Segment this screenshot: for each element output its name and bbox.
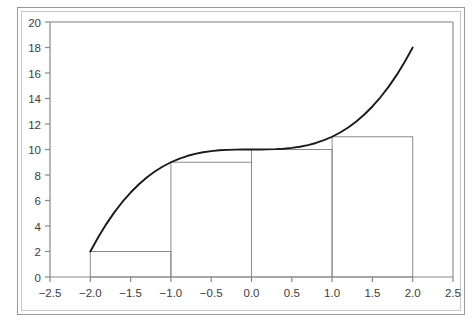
riemann-sum-chart: 02468101214161820−2.5−2.0−1.5−1.0−0.50.0… xyxy=(0,0,472,324)
riemann-rectangle xyxy=(171,162,252,277)
x-axis-tick-label: −2.5 xyxy=(39,287,62,299)
y-axis-tick-label: 16 xyxy=(28,68,41,80)
x-axis-tick-label: 0.0 xyxy=(244,287,260,299)
x-axis-tick-label: −1.0 xyxy=(160,287,183,299)
riemann-rectangle xyxy=(90,252,171,278)
y-axis-tick-label: 0 xyxy=(35,272,41,284)
outer-frame xyxy=(18,8,465,315)
y-axis-tick-label: 6 xyxy=(35,195,41,207)
x-axis-tick-label: 2.0 xyxy=(405,287,421,299)
chart-figure: 02468101214161820−2.5−2.0−1.5−1.0−0.50.0… xyxy=(0,0,472,324)
y-axis-tick-label: 12 xyxy=(28,119,41,131)
riemann-rectangle xyxy=(252,150,333,278)
riemann-rectangle xyxy=(332,137,413,277)
x-axis-tick-label: 0.5 xyxy=(284,287,300,299)
x-axis-tick-label: 1.0 xyxy=(324,287,340,299)
x-axis-tick-label: −2.0 xyxy=(79,287,102,299)
y-axis-tick-label: 10 xyxy=(28,144,41,156)
x-axis-tick-label: 2.5 xyxy=(445,287,461,299)
y-axis-tick-label: 2 xyxy=(35,246,41,258)
y-axis-tick-label: 14 xyxy=(28,93,41,105)
y-axis-tick-label: 4 xyxy=(35,221,42,233)
x-axis-tick-label: −1.5 xyxy=(119,287,142,299)
y-axis-tick-label: 20 xyxy=(28,17,41,29)
y-axis-tick-label: 8 xyxy=(35,170,41,182)
y-axis-tick-label: 18 xyxy=(28,42,41,54)
x-axis-tick-label: 1.5 xyxy=(364,287,380,299)
outer-frame-inner xyxy=(22,12,461,311)
x-axis-tick-label: −0.5 xyxy=(200,287,223,299)
